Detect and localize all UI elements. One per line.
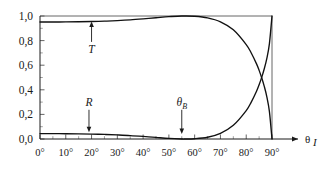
y-axis-tick-label: 0,2 <box>19 108 34 121</box>
x-axis-tick-label: 30° <box>110 147 125 158</box>
fresnel-coefficients-chart: 0,00,20,40,60,81,0 0°10°20°30°40°50°60°7… <box>0 0 328 174</box>
r-annotation-label: R <box>84 96 92 108</box>
x-axis-tick-label: 90° <box>265 147 280 158</box>
x-axis-tick-label: 60° <box>187 147 202 158</box>
y-axis-tick-label: 0,0 <box>19 133 34 146</box>
x-axis-tick-label: 0° <box>35 147 44 158</box>
x-axis-tick-label: 40° <box>136 147 151 158</box>
y-axis-tick-label: 0,4 <box>19 84 34 97</box>
x-axis-tick-label: 70° <box>213 147 228 158</box>
y-axis-tick-label: 0,8 <box>19 35 34 48</box>
x-axis-tick-label: 10° <box>58 147 73 158</box>
y-axis-tick-label: 1,0 <box>19 10 34 23</box>
x-axis-title-symbol: θ <box>305 133 310 145</box>
x-axis-tick-label: 50° <box>162 147 177 158</box>
x-axis-tick-label: 20° <box>84 147 99 158</box>
y-axis-tick-label: 0,6 <box>19 59 34 72</box>
x-axis-tick-label: 80° <box>239 147 254 158</box>
